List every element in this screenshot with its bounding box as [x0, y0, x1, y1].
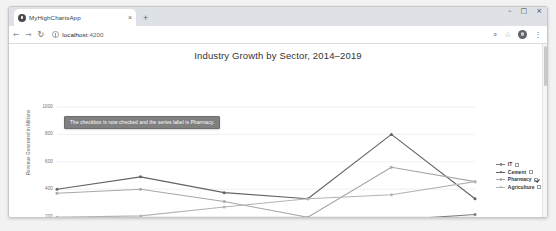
data-point[interactable]: [56, 216, 59, 218]
scrollbar-thumb[interactable]: [544, 46, 547, 86]
url-port: :4200: [88, 31, 104, 38]
chart-legend: ITCementPharmacyAgriculture: [496, 162, 541, 190]
legend-label: IT: [508, 162, 512, 167]
legend-marker-icon: [496, 163, 505, 167]
reload-icon[interactable]: ↻: [38, 31, 45, 39]
menu-icon[interactable]: ⋮: [534, 31, 542, 39]
legend-item-it[interactable]: IT: [496, 162, 541, 167]
data-point[interactable]: [306, 197, 309, 200]
annotation-tooltip: The checkbox is now checked and the seri…: [64, 116, 220, 129]
legend-marker-icon: [496, 170, 505, 174]
close-icon[interactable]: ×: [128, 14, 132, 21]
avatar[interactable]: [518, 30, 527, 39]
legend-label: Agriculture: [508, 185, 535, 190]
page-viewport: Industry Growth by Sector, 2014–2019 Rev…: [9, 44, 547, 218]
legend-checkbox-cement[interactable]: [529, 170, 533, 174]
data-point[interactable]: [474, 197, 477, 200]
toolbar-actions: ⌕ ☆ ⋮: [493, 30, 543, 39]
browser-toolbar: ← → ↻ localhost:4200 ⌕ ☆ ⋮: [9, 26, 547, 44]
tab-title: MyHighChartsApp: [29, 14, 125, 21]
data-point[interactable]: [139, 175, 142, 178]
data-point[interactable]: [390, 166, 393, 169]
legend-item-cement[interactable]: Cement: [496, 170, 541, 175]
legend-marker-icon: [496, 178, 505, 182]
back-icon[interactable]: ←: [13, 31, 19, 39]
desktop-background: MyHighChartsApp × + – □ × ← → ↻ localhos…: [0, 0, 556, 231]
legend-checkbox-agriculture[interactable]: [537, 185, 541, 189]
data-point[interactable]: [390, 193, 393, 196]
legend-item-agriculture[interactable]: Agriculture: [496, 185, 541, 190]
data-point[interactable]: [56, 188, 59, 191]
page-scrollbar[interactable]: [542, 44, 547, 218]
browser-window: MyHighChartsApp × + – □ × ← → ↻ localhos…: [8, 6, 548, 218]
favicon-icon: [18, 14, 26, 22]
series-group: [56, 133, 477, 218]
url-host: localhost: [62, 31, 87, 38]
chart-plot-area: [9, 44, 547, 218]
forward-icon[interactable]: →: [25, 31, 31, 39]
window-close-icon[interactable]: ×: [536, 8, 542, 15]
maximize-icon[interactable]: □: [521, 8, 528, 15]
data-point[interactable]: [474, 213, 477, 216]
legend-item-pharmacy[interactable]: Pharmacy: [496, 177, 541, 182]
site-info-icon[interactable]: [52, 31, 59, 38]
data-point[interactable]: [390, 133, 393, 136]
bookmark-star-icon[interactable]: ☆: [504, 31, 511, 39]
series-line[interactable]: [57, 167, 475, 217]
data-point[interactable]: [223, 206, 226, 209]
data-point[interactable]: [474, 180, 477, 183]
zoom-icon[interactable]: ⌕: [493, 31, 497, 39]
legend-checkbox-pharmacy[interactable]: [534, 178, 538, 182]
minimize-icon[interactable]: –: [508, 8, 512, 15]
legend-checkbox-it[interactable]: [515, 163, 519, 167]
legend-marker-icon: [496, 185, 505, 189]
series-line[interactable]: [57, 182, 475, 218]
data-point[interactable]: [139, 214, 142, 217]
legend-label: Cement: [508, 170, 526, 175]
browser-tab-strip: MyHighChartsApp × + – □ ×: [9, 7, 547, 26]
data-point[interactable]: [223, 191, 226, 194]
address-bar[interactable]: localhost:4200: [52, 29, 487, 41]
window-controls: – □ ×: [508, 8, 545, 15]
highcharts-chart: Industry Growth by Sector, 2014–2019 Rev…: [9, 44, 547, 218]
url-text: localhost:4200: [62, 31, 103, 38]
legend-label: Pharmacy: [508, 177, 532, 182]
data-point[interactable]: [223, 200, 226, 203]
browser-tab[interactable]: MyHighChartsApp ×: [14, 9, 136, 26]
new-tab-icon[interactable]: +: [143, 14, 148, 23]
data-point[interactable]: [56, 192, 59, 195]
data-point[interactable]: [139, 188, 142, 191]
